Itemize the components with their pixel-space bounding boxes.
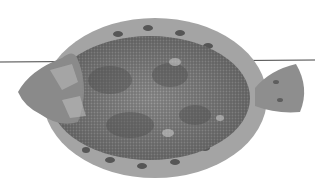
flatfish-photo (0, 0, 330, 186)
tail-fin (255, 64, 304, 112)
photo-canvas (0, 0, 330, 186)
